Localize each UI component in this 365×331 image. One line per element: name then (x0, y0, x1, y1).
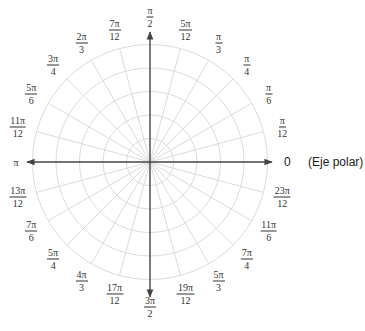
grid-spoke (150, 162, 252, 221)
angle-denominator: 2 (148, 308, 153, 319)
angle-label: 3π2 (144, 296, 156, 319)
angle-label-0: 0 (284, 155, 291, 169)
angle-denominator: 4 (244, 66, 249, 77)
angle-denominator: 12 (277, 198, 287, 209)
angle-denominator: 12 (110, 295, 120, 306)
angle-label: 5π12 (179, 18, 191, 41)
angle-denominator: 12 (180, 295, 190, 306)
angle-label: 7π4 (241, 247, 253, 270)
angle-label: 7π6 (25, 219, 37, 242)
angle-denominator: 4 (51, 259, 56, 270)
grid-spoke (150, 162, 209, 264)
angle-numerator: 7π (241, 247, 253, 259)
grid-spoke (150, 132, 263, 162)
angle-label: π3 (215, 32, 222, 55)
angle-label: 5π3 (212, 269, 224, 292)
angle-numerator: 11π (260, 219, 277, 231)
angle-label: 11π6 (260, 219, 277, 242)
grid-spoke (91, 162, 150, 264)
angle-label: 7π12 (109, 18, 121, 41)
angle-denominator: 4 (244, 259, 249, 270)
angle-label: 4π3 (75, 269, 87, 292)
angle-denominator: 12 (110, 30, 120, 41)
angle-denominator: 3 (216, 281, 221, 292)
angle-numerator: 7π (25, 219, 37, 231)
grid-spoke (37, 132, 150, 162)
angle-label: 17π12 (106, 283, 123, 306)
angle-label: π2 (146, 6, 153, 29)
angle-denominator: 3 (216, 44, 221, 55)
angle-denominator: 6 (29, 94, 34, 105)
angle-label: 23π12 (274, 186, 291, 209)
angle-numerator: 11π (9, 115, 26, 127)
grid-spoke (150, 162, 233, 245)
angle-numerator: 5π (179, 18, 191, 30)
angle-denominator: 6 (29, 231, 34, 242)
angle-denominator: 3 (79, 281, 84, 292)
angle-numerator: 5π (25, 82, 37, 94)
grid-spoke (120, 162, 150, 275)
grid-spoke (150, 49, 180, 162)
angle-numerator: 3π (144, 296, 156, 308)
angle-label: 11π12 (9, 115, 26, 138)
grid-spoke (67, 162, 150, 245)
angle-denominator: 12 (180, 30, 190, 41)
axes (27, 32, 272, 297)
grid-spoke (91, 60, 150, 162)
grid-spoke (48, 103, 150, 162)
grid-spoke (150, 162, 263, 192)
angle-numerator: π (279, 115, 286, 127)
angle-denominator: 4 (51, 66, 56, 77)
angle-numerator: 19π (177, 283, 194, 295)
angle-numerator: π (215, 32, 222, 44)
angle-numerator: 2π (75, 32, 87, 44)
angle-label-pi: π (13, 157, 18, 168)
grid-spoke (150, 60, 209, 162)
angle-label: 5π4 (47, 247, 59, 270)
angle-numerator: 4π (75, 269, 87, 281)
angle-denominator: 12 (13, 127, 23, 138)
grid-spoke (37, 162, 150, 192)
angle-numerator: π (265, 82, 272, 94)
angle-numerator: 13π (9, 186, 26, 198)
angle-numerator: π (243, 54, 250, 66)
angle-denominator: 12 (277, 127, 287, 138)
polar-axis-label: (Eje polar) (308, 155, 363, 169)
angle-numerator: 5π (212, 269, 224, 281)
angle-numerator: 7π (109, 18, 121, 30)
angle-label: 13π12 (9, 186, 26, 209)
angle-label: π12 (277, 115, 287, 138)
angle-label: 5π6 (25, 82, 37, 105)
grid-spoke (120, 49, 150, 162)
angle-denominator: 6 (266, 94, 271, 105)
angle-denominator: 6 (266, 231, 271, 242)
angle-numerator: 23π (274, 186, 291, 198)
grid-spoke (150, 162, 180, 275)
angle-label: 3π4 (47, 54, 59, 77)
angle-label: π4 (243, 54, 250, 77)
grid-spoke (150, 79, 233, 162)
angle-numerator: 3π (47, 54, 59, 66)
grid-spoke (48, 162, 150, 221)
grid-spoke (150, 103, 252, 162)
angle-numerator: 17π (106, 283, 123, 295)
angle-numerator: π (146, 6, 153, 18)
angle-denominator: 2 (148, 18, 153, 29)
angle-label: π6 (265, 82, 272, 105)
angle-denominator: 12 (13, 198, 23, 209)
angle-label: 19π12 (177, 283, 194, 306)
angle-label: 2π3 (75, 32, 87, 55)
grid-spoke (67, 79, 150, 162)
angle-denominator: 3 (79, 44, 84, 55)
angle-numerator: 5π (47, 247, 59, 259)
